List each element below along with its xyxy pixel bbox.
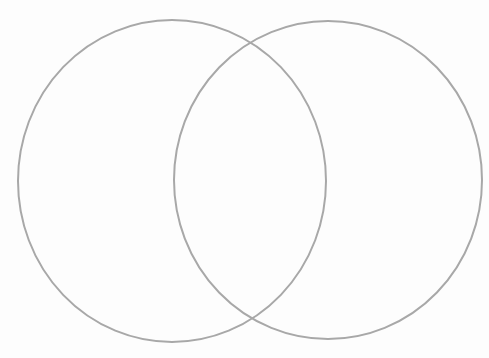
venn-diagram (0, 0, 489, 358)
left-set-circle (18, 20, 326, 342)
right-set-circle (174, 21, 482, 339)
venn-diagram-canvas (0, 0, 489, 358)
